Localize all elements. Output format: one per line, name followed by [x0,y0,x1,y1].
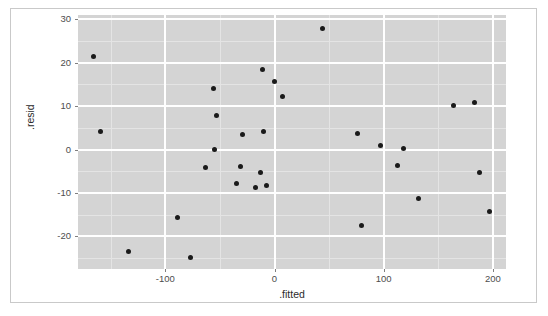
data-point [126,249,131,254]
data-point [355,131,360,136]
gridline-major-horizontal [78,235,506,237]
x-tick-mark [165,269,166,272]
y-tick-mark [75,236,78,237]
y-tick-mark [75,150,78,151]
data-point [264,183,269,188]
data-point [472,100,477,105]
y-tick-mark [75,193,78,194]
gridline-minor-vertical [438,15,439,269]
x-tick-label: 100 [359,274,409,284]
data-point [211,86,216,91]
data-point [261,129,266,134]
y-tick-mark [75,19,78,20]
data-point [416,196,421,201]
gridline-major-vertical [492,15,494,269]
data-point [320,26,325,31]
x-tick-label: -100 [140,274,190,284]
data-point [253,185,258,190]
data-point [188,255,193,260]
y-tick-label: -10 [38,188,71,198]
data-point [280,94,285,99]
data-point [91,54,96,59]
data-point [451,103,456,108]
gridline-minor-vertical [220,15,221,269]
data-point [175,215,180,220]
gridline-major-horizontal [78,192,506,194]
data-point [98,129,103,134]
data-point [359,223,364,228]
data-point [212,147,217,152]
data-point [258,170,263,175]
x-tick-label: 0 [250,274,300,284]
y-tick-label: -20 [38,231,71,241]
gridline-minor-vertical [111,15,112,269]
data-point [234,181,239,186]
data-point [214,113,219,118]
gridline-minor-horizontal [78,215,506,216]
gridline-major-vertical [274,15,276,269]
y-tick-label: 20 [38,58,71,68]
data-point [477,170,482,175]
gridline-minor-horizontal [78,258,506,259]
scatter-plot: -20-100102030 -1000100200 .resid .fitted [0,0,548,316]
plot-panel [78,15,506,269]
gridline-minor-horizontal [78,41,506,42]
gridline-minor-horizontal [78,171,506,172]
y-tick-label: 0 [38,145,71,155]
x-tick-label: 200 [468,274,518,284]
y-tick-mark [75,106,78,107]
y-axis-title: .resid [24,104,36,130]
data-point [240,132,245,137]
gridline-major-horizontal [78,149,506,151]
x-tick-mark [275,269,276,272]
gridline-major-vertical [164,15,166,269]
gridline-major-vertical [383,15,385,269]
data-point [395,163,400,168]
data-point [260,67,265,72]
data-point [203,165,208,170]
gridline-major-horizontal [78,105,506,107]
x-tick-mark [493,269,494,272]
y-tick-mark [75,63,78,64]
gridline-minor-horizontal [78,128,506,129]
gridline-major-horizontal [78,62,506,64]
gridline-minor-horizontal [78,84,506,85]
gridline-minor-vertical [329,15,330,269]
x-axis-title: .fitted [78,288,506,300]
y-tick-label: 30 [38,14,71,24]
data-point [238,164,243,169]
y-tick-label: 10 [38,101,71,111]
x-tick-mark [384,269,385,272]
gridline-major-horizontal [78,18,506,20]
